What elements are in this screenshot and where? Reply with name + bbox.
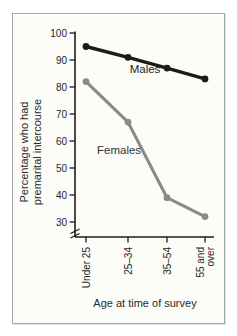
females-data-point xyxy=(83,78,90,85)
y-tick-label: 100 xyxy=(50,28,67,39)
males-data-point xyxy=(202,76,209,83)
series-label-males: Males xyxy=(123,63,167,75)
y-axis-title-line1: Percentage who had xyxy=(18,62,31,242)
y-tick-label: 80 xyxy=(56,82,68,93)
x-axis-title: Age at time of survey xyxy=(75,297,215,309)
females-data-point xyxy=(164,194,171,201)
x-tick-label: Under 25 xyxy=(81,247,92,289)
y-tick-label: 30 xyxy=(56,217,68,228)
y-tick-label: 70 xyxy=(56,109,68,120)
males-data-point xyxy=(83,43,90,50)
x-tick-label: 55 and xyxy=(195,247,206,278)
y-axis-title-line2: premarital intercourse xyxy=(31,62,44,242)
females-data-point xyxy=(202,213,209,220)
scanned-figure-page: 10090807060504030Under 2525–3435–5455 an… xyxy=(0,0,237,336)
y-tick-label: 50 xyxy=(56,163,68,174)
y-tick-label: 60 xyxy=(56,136,68,147)
y-tick-label: 90 xyxy=(56,55,68,66)
y-tick-label: 40 xyxy=(56,190,68,201)
series-label-females: Females xyxy=(97,144,141,156)
y-axis-title: Percentage who had premarital intercours… xyxy=(18,62,44,242)
x-tick-label: 35–54 xyxy=(162,247,173,275)
x-tick-label: over xyxy=(205,246,216,266)
females-data-point xyxy=(125,119,132,126)
x-tick-label: 25–34 xyxy=(123,247,134,275)
males-data-point xyxy=(125,54,132,61)
